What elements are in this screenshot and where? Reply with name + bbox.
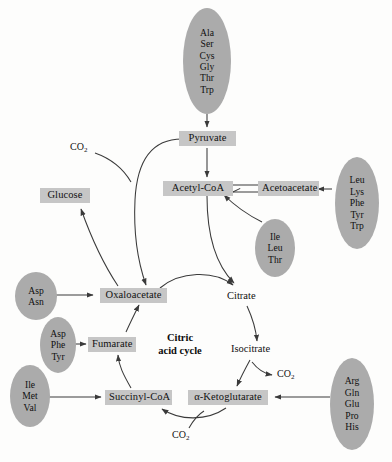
- co2-subscript: 2: [291, 373, 295, 381]
- metabolite-label-citrate: Citrate: [227, 289, 256, 302]
- amino-acid-group-to-alpha-ketoglutarate: Arg Gln Glu Pro His: [330, 358, 374, 450]
- residue-label: Leu: [268, 242, 283, 253]
- metabolite-box-acetyl-coa: Acetyl-CoA: [163, 181, 233, 196]
- co2-formula: CO: [277, 368, 291, 379]
- residue-label: Tyr: [350, 209, 363, 220]
- amino-acid-group-to-oxaloacetate: Asp Asn: [15, 272, 57, 320]
- metabolite-label-isocitrate: Isocitrate: [231, 342, 270, 355]
- residue-label: Asn: [28, 296, 43, 307]
- residue-label: Met: [22, 390, 37, 401]
- co2-label-pyruvate-carboxylation: CO2: [70, 141, 87, 154]
- cycle-caption-line-2: acid cycle: [144, 345, 216, 358]
- metabolite-box-alpha-ketoglutarate: α-Ketoglutarate: [188, 390, 268, 405]
- arrow-co2-from-alpha-ketoglutarate: [189, 411, 204, 428]
- residue-label: Cys: [200, 50, 215, 61]
- residue-label: Arg: [345, 375, 360, 386]
- amino-acid-group-to-acetoacetate: Leu Lys Phe Tyr Trp: [335, 157, 379, 249]
- residue-label: Phe: [51, 339, 65, 350]
- residue-label: Leu: [350, 174, 365, 185]
- citric-acid-cycle-diagram: Ala Ser Cys Gly Thr Trp Leu Lys Phe Tyr …: [0, 0, 392, 462]
- cycle-caption-line-1: Citric: [144, 332, 216, 345]
- arrow-succinyl-coa-to-fumarate: [118, 355, 131, 388]
- amino-acid-group-to-fumarate: Asp Phe Tyr: [40, 317, 76, 373]
- arrow-pyruvate-to-oxaloacetate: [135, 139, 182, 285]
- metabolite-box-pyruvate: Pyruvate: [179, 131, 236, 146]
- metabolite-box-glucose: Glucose: [40, 188, 90, 203]
- amino-acid-group-to-pyruvate: Ala Ser Cys Gly Thr Trp: [183, 8, 231, 114]
- residue-label: Glu: [345, 398, 359, 409]
- co2-label-alpha-ketoglutarate-dehydrogenase: CO2: [172, 429, 189, 442]
- residue-label: Gln: [345, 387, 359, 398]
- residue-label: His: [345, 421, 358, 432]
- arrow-oxaloacetate-to-citrate: [160, 274, 233, 288]
- arrow-acetyl-coa-to-citrate: [207, 196, 234, 283]
- arrow-alpha-ketoglutarate-to-succinyl-coa: [162, 408, 226, 418]
- residue-label: Lys: [350, 186, 364, 197]
- arrow-citrate-to-isocitrate: [247, 306, 257, 341]
- arrow-isocitrate-to-alpha-ketoglutarate: [237, 360, 250, 386]
- metabolite-box-succinyl-coa: Succinyl-CoA: [105, 390, 172, 405]
- metabolite-box-acetoacetate: Acetoacetate: [258, 181, 319, 196]
- arrow-aa-to-acetyl-coa: [224, 195, 262, 222]
- co2-label-isocitrate-dehydrogenase: CO2: [277, 368, 294, 381]
- residue-label: Thr: [268, 254, 282, 265]
- residue-label: Gly: [200, 61, 214, 72]
- residue-label: Thr: [200, 72, 214, 83]
- metabolite-box-oxaloacetate: Oxaloacetate: [100, 288, 167, 303]
- residue-label: Pro: [345, 410, 358, 421]
- cycle-center-caption: Citric acid cycle: [144, 332, 216, 357]
- amino-acid-group-to-succinyl-coa: Ile Met Val: [10, 365, 50, 427]
- metabolite-box-fumarate: Fumarate: [88, 337, 136, 352]
- co2-subscript: 2: [84, 146, 88, 154]
- residue-label: Ile: [270, 231, 280, 242]
- co2-formula: CO: [70, 141, 84, 152]
- arrow-co2-into-oxaloacetate-branch: [95, 153, 131, 182]
- amino-acid-group-to-acetyl-coa: Ile Leu Thr: [255, 219, 295, 277]
- co2-formula: CO: [172, 429, 186, 440]
- residue-label: Val: [24, 402, 37, 413]
- arrow-oxaloacetate-to-glucose: [81, 209, 118, 286]
- residue-label: Phe: [350, 197, 364, 208]
- residue-label: Asp: [28, 285, 43, 296]
- residue-label: Asp: [50, 328, 65, 339]
- residue-label: Ile: [25, 379, 35, 390]
- residue-label: Trp: [350, 220, 364, 231]
- residue-label: Tyr: [51, 351, 64, 362]
- arrow-isocitrate-to-co2: [252, 362, 272, 375]
- residue-label: Trp: [200, 84, 214, 95]
- co2-subscript: 2: [186, 434, 190, 442]
- residue-label: Ala: [200, 27, 214, 38]
- residue-label: Ser: [201, 38, 214, 49]
- arrow-fumarate-to-oxaloacetate: [126, 305, 139, 332]
